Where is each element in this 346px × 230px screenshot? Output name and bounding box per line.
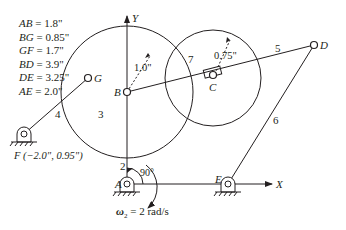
point-c-label: C: [209, 81, 217, 93]
small-radius-label: 0.75": [214, 50, 237, 61]
link-7-label: 7: [188, 53, 194, 65]
point-d-label: D: [319, 39, 328, 51]
ground-support-f: [10, 127, 37, 146]
point-e-label: E: [214, 173, 222, 185]
point-b-label: B: [114, 86, 121, 98]
point-a-label: A: [114, 178, 122, 190]
big-radius-label: 1.0": [134, 62, 151, 73]
pin-b: [124, 89, 131, 96]
point-g-label: G: [94, 72, 102, 84]
linkage-drawing: Y X B G C D A E F (−2.0", 0.95") 4 3 2 5…: [0, 0, 346, 230]
x-axis-label: X: [275, 178, 284, 190]
pin-g: [85, 75, 92, 82]
link-3-label: 3: [98, 108, 104, 120]
pin-c: [210, 72, 217, 79]
pin-d: [311, 42, 318, 49]
mechanism-diagram: AB = 1.8" BG = 0.85" GF = 1.7" BD = 3.9"…: [0, 0, 346, 230]
link-4-label: 4: [55, 108, 61, 120]
y-axis-label: Y: [132, 12, 140, 24]
link-6-label: 6: [273, 114, 279, 126]
link-6: [228, 45, 314, 184]
angle-label: 90°: [140, 167, 154, 178]
radius-small-arrowhead: [226, 37, 230, 43]
link-2-label: 2: [120, 160, 126, 172]
point-f-label: F (−2.0", 0.95"): [13, 150, 83, 162]
link-4: [24, 78, 88, 134]
link-5-label: 5: [275, 42, 281, 54]
omega-label: ω2 = 2 rad/s: [116, 205, 169, 220]
